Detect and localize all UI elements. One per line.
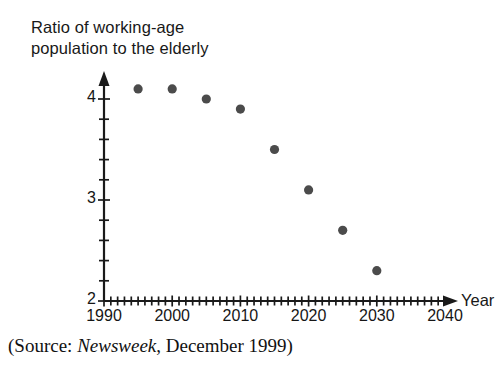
chart-figure: Ratio of working-age population to the e… xyxy=(0,0,504,369)
data-point xyxy=(372,266,381,275)
x-tick-label: 2010 xyxy=(210,307,270,325)
data-point xyxy=(304,185,313,194)
data-point xyxy=(202,94,211,103)
data-points xyxy=(134,84,382,275)
source-caption: (Source: Newsweek, December 1999) xyxy=(8,335,293,357)
data-point xyxy=(134,84,143,93)
data-point xyxy=(338,226,347,235)
data-point xyxy=(270,145,279,154)
data-point xyxy=(168,84,177,93)
x-tick-label: 1990 xyxy=(74,307,134,325)
y-tick-label: 2 xyxy=(74,290,96,308)
x-tick-label: 2000 xyxy=(142,307,202,325)
caption-source-name: Newsweek xyxy=(77,335,156,356)
x-axis-label: Year xyxy=(461,291,494,310)
caption-prefix: (Source: xyxy=(8,335,77,356)
y-tick-label: 4 xyxy=(74,88,96,106)
x-tick-label: 2020 xyxy=(279,307,339,325)
caption-suffix: , December 1999) xyxy=(156,335,293,356)
data-point xyxy=(236,105,245,114)
x-tick-label: 2030 xyxy=(347,307,407,325)
x-axis-arrowhead xyxy=(443,296,458,307)
y-axis-arrowhead xyxy=(99,71,110,86)
axis-ticks xyxy=(98,99,438,307)
y-tick-label: 3 xyxy=(74,189,96,207)
axes xyxy=(99,71,459,307)
